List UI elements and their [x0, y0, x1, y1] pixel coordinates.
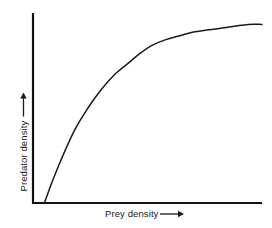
up-arrow-icon — [18, 93, 28, 119]
y-axis-label: Predator density — [18, 72, 29, 192]
response-curve — [44, 24, 262, 203]
chart-canvas — [0, 0, 272, 228]
predator-prey-chart: Prey density Predator density — [0, 0, 272, 228]
right-arrow-icon — [159, 209, 185, 219]
x-axis-label: Prey density — [105, 208, 185, 219]
y-axis-label-text: Predator density — [18, 121, 29, 192]
x-axis-label-text: Prey density — [105, 208, 158, 219]
